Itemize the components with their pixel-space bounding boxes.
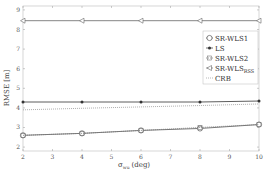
x-axis-label: σwu(deg) [118, 161, 150, 170]
x-tick-label: 7 [169, 153, 173, 160]
x-tick-label: 6 [139, 153, 143, 160]
series-sr-wls-rss [21, 18, 262, 23]
dot-marker-icon [199, 101, 202, 104]
series-sr-wls1 [20, 122, 261, 138]
y-axis-label: RMSE [m] [3, 69, 11, 106]
series-ls [22, 100, 261, 104]
triangle-marker-icon [198, 18, 203, 23]
y-tick-label: 5 [16, 84, 20, 91]
legend-label: LS [215, 45, 225, 53]
dot-marker-icon [22, 101, 25, 104]
dot-marker-icon [208, 47, 211, 50]
legend-label: SR-WLS1 [215, 35, 248, 43]
dot-marker-icon [258, 100, 261, 103]
rmse-line-chart: 234567891023456789 RMSE [m] σwu(deg) SR-… [0, 0, 272, 171]
x-tick-label: 8 [198, 153, 202, 160]
triangle-marker-icon [80, 18, 85, 23]
y-tick-label: 2 [16, 143, 20, 150]
x-tick-label: 9 [228, 153, 232, 160]
legend-label: SR-WLS2 [215, 55, 248, 63]
x-tick-label: 2 [21, 153, 25, 160]
x-tick-label: 4 [80, 153, 84, 160]
y-tick-label: 3 [16, 123, 20, 130]
y-tick-label: 9 [16, 6, 20, 13]
series-crb [23, 104, 259, 110]
series-line [23, 104, 259, 110]
circle-marker-icon [207, 35, 212, 40]
y-tick-label: 7 [16, 45, 20, 52]
triangle-marker-icon [139, 18, 144, 23]
legend: SR-WLS1LSSR-WLS2SR-WLSRSSCRB [203, 31, 258, 84]
x-tick-label: 5 [110, 153, 114, 160]
dot-marker-icon [140, 101, 143, 104]
x-tick-label: 3 [51, 153, 55, 160]
legend-label: CRB [215, 75, 231, 83]
dot-marker-icon [81, 101, 84, 104]
x-tick-label: 10 [255, 153, 263, 160]
y-tick-label: 4 [16, 104, 20, 111]
y-tick-label: 6 [16, 65, 20, 72]
y-tick-label: 8 [16, 26, 20, 33]
